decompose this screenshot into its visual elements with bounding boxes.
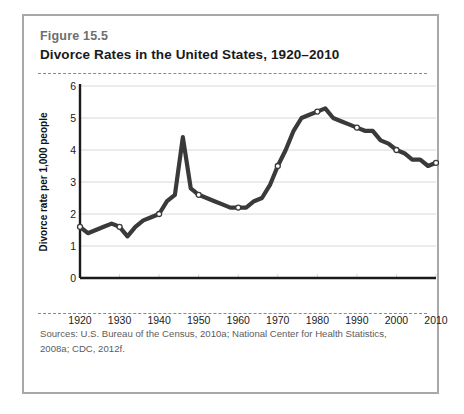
y-tick-label: 4: [54, 144, 76, 156]
data-point-marker: [354, 125, 359, 130]
data-point-marker: [394, 148, 399, 153]
x-tick-label: 1930: [108, 314, 131, 326]
figure-title: Divorce Rates in the United States, 1920…: [40, 47, 339, 62]
x-tick-label: 2010: [424, 314, 447, 326]
divider-bottom: [38, 313, 427, 314]
divider-top: [38, 73, 427, 74]
x-tick-label: 1920: [68, 314, 91, 326]
x-tick-label: 1960: [227, 314, 250, 326]
data-point-marker: [236, 205, 241, 210]
data-point-marker: [78, 224, 83, 229]
x-tick-label: 1990: [345, 314, 368, 326]
y-axis-label: Divorce rate per 1,000 people: [38, 112, 49, 252]
y-tick-label: 0: [54, 272, 76, 284]
y-tick-label: 2: [54, 208, 76, 220]
data-point-marker: [157, 212, 162, 217]
x-tick-label: 1950: [187, 314, 210, 326]
y-axis-ticks: 0123456: [50, 78, 76, 310]
data-point-marker: [434, 160, 439, 165]
data-point-marker: [117, 224, 122, 229]
x-tick-label: 1940: [147, 314, 170, 326]
chart-plot-area: Divorce rate per 1,000 people 0123456 19…: [24, 78, 441, 310]
x-tick-label: 1970: [266, 314, 289, 326]
divorce-rate-line-chart: [24, 78, 441, 310]
figure-number: Figure 15.5: [40, 29, 108, 43]
y-tick-label: 6: [54, 80, 76, 92]
x-tick-label: 2000: [385, 314, 408, 326]
data-line-divorce-rate: [80, 108, 436, 236]
y-tick-label: 3: [54, 176, 76, 188]
figure-box: Figure 15.5 Divorce Rates in the United …: [22, 14, 439, 394]
x-tick-label: 1980: [306, 314, 329, 326]
sources-note: Sources: U.S. Bureau of the Census, 2010…: [40, 327, 415, 357]
y-tick-label: 1: [54, 240, 76, 252]
y-tick-label: 5: [54, 112, 76, 124]
data-point-marker: [196, 192, 201, 197]
data-point-marker: [315, 109, 320, 114]
data-point-marker: [275, 164, 280, 169]
